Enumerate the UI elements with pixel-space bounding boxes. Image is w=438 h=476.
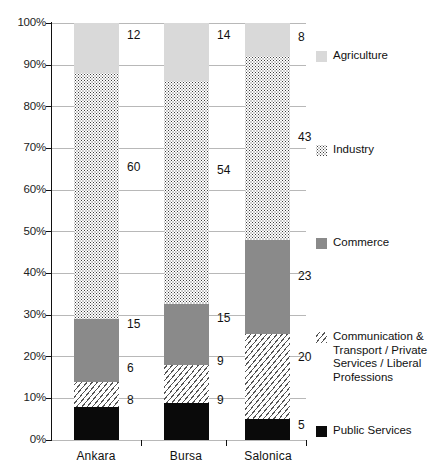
- segment-salonica-public-services: [245, 419, 290, 440]
- datalabel-salonica-agriculture: 8: [298, 30, 305, 44]
- segment-ankara-commerce: [74, 319, 119, 382]
- ytick-mark-30: [46, 315, 52, 316]
- legend-item-industry[interactable]: Industry: [316, 143, 374, 157]
- comm-transport-swatch-icon: [316, 332, 327, 343]
- ytick-mark-90: [46, 65, 52, 66]
- datalabel-salonica-communication: 20: [298, 350, 311, 364]
- segment-ankara-public-services: [74, 407, 119, 440]
- datalabel-ankara-industry: 60: [127, 160, 140, 174]
- bar-bursa: [164, 23, 209, 440]
- legend-label-agriculture: Agriculture: [333, 49, 388, 63]
- segment-salonica-commerce: [245, 240, 290, 334]
- datalabel-salonica-commerce: 23: [298, 269, 311, 283]
- stacked-bar-chart: 8 6 15 60 12 9 9 15 54 14 5 20 23 43 8 1…: [0, 0, 438, 476]
- ytick-mark-80: [46, 106, 52, 107]
- legend-item-communication-transport[interactable]: Communication & Transport / Private Serv…: [316, 330, 427, 384]
- gridline-0: [51, 440, 306, 441]
- segment-bursa-public-services: [164, 403, 209, 440]
- ytick-label-80: 80%: [2, 100, 46, 112]
- legend-label-public-services: Public Services: [333, 424, 412, 438]
- ytick-mark-20: [46, 356, 52, 357]
- bar-ankara: [74, 23, 119, 440]
- datalabel-bursa-agriculture: 14: [217, 28, 230, 42]
- segment-bursa-agriculture: [164, 23, 209, 81]
- xtick-label-bursa: Bursa: [156, 449, 216, 463]
- commerce-swatch-icon: [316, 238, 327, 249]
- datalabel-bursa-public-services: 9: [217, 393, 224, 407]
- segment-ankara-industry: [74, 73, 119, 319]
- bar-salonica: [245, 23, 290, 440]
- public-services-swatch-icon: [316, 426, 327, 437]
- segment-salonica-communication-transport: [245, 334, 290, 419]
- segment-salonica-industry: [245, 56, 290, 240]
- xtick-mark-3: [306, 440, 307, 446]
- datalabel-salonica-industry: 43: [298, 130, 311, 144]
- ytick-label-0: 0%: [2, 433, 46, 445]
- ytick-mark-50: [46, 231, 52, 232]
- ytick-mark-10: [46, 398, 52, 399]
- segment-salonica-agriculture: [245, 23, 290, 56]
- industry-swatch-icon: [316, 145, 327, 156]
- ytick-label-90: 90%: [2, 58, 46, 70]
- plot-area: 8 6 15 60 12 9 9 15 54 14 5 20 23 43 8: [51, 23, 306, 440]
- segment-ankara-agriculture: [74, 23, 119, 73]
- ytick-label-30: 30%: [2, 308, 46, 320]
- segment-ankara-communication-transport: [74, 382, 119, 407]
- datalabel-ankara-communication: 6: [127, 361, 134, 375]
- legend-item-commerce[interactable]: Commerce: [316, 236, 389, 250]
- segment-bursa-communication-transport: [164, 365, 209, 403]
- ytick-label-40: 40%: [2, 266, 46, 278]
- legend-label-industry: Industry: [333, 143, 374, 157]
- chart-legend: Agriculture Industry Commerce Communicat…: [316, 0, 438, 476]
- datalabel-bursa-commerce: 15: [217, 311, 230, 325]
- ytick-label-70: 70%: [2, 141, 46, 153]
- ytick-label-10: 10%: [2, 391, 46, 403]
- datalabel-salonica-public-services: 5: [298, 418, 305, 432]
- ytick-label-50: 50%: [2, 225, 46, 237]
- datalabel-bursa-communication: 9: [217, 354, 224, 368]
- ytick-label-100: 100%: [2, 16, 46, 28]
- legend-item-agriculture[interactable]: Agriculture: [316, 49, 388, 63]
- datalabel-ankara-agriculture: 12: [127, 28, 140, 42]
- ytick-label-60: 60%: [2, 183, 46, 195]
- xtick-mark-1: [141, 440, 142, 446]
- legend-item-public-services[interactable]: Public Services: [316, 424, 412, 438]
- datalabel-ankara-public-services: 8: [127, 393, 134, 407]
- xtick-label-ankara: Ankara: [66, 449, 126, 463]
- ytick-mark-40: [46, 273, 52, 274]
- ytick-mark-0: [46, 440, 52, 441]
- datalabel-bursa-industry: 54: [217, 163, 230, 177]
- agriculture-swatch-icon: [316, 51, 327, 62]
- legend-label-commerce: Commerce: [333, 236, 389, 250]
- legend-label-communication-transport: Communication & Transport / Private Serv…: [333, 330, 427, 384]
- ytick-mark-60: [46, 190, 52, 191]
- ytick-mark-70: [46, 148, 52, 149]
- ytick-mark-100: [46, 23, 52, 24]
- datalabel-ankara-commerce: 15: [127, 317, 140, 331]
- xtick-label-salonica: Salonica: [236, 449, 300, 463]
- xtick-mark-2: [226, 440, 227, 446]
- ytick-label-20: 20%: [2, 350, 46, 362]
- segment-bursa-commerce: [164, 304, 209, 365]
- segment-bursa-industry: [164, 81, 209, 304]
